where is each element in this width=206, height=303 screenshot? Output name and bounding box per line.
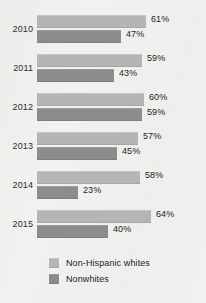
category-label-2013: 2013 [0, 131, 33, 162]
bar-2014-series1 [37, 186, 78, 199]
bar-2013-series0 [37, 132, 138, 145]
bar-group: 201564%40% [0, 209, 206, 240]
value-label-2014-series0: 58% [145, 170, 163, 180]
value-label-2012-series0: 60% [149, 92, 167, 102]
value-label-2010-series0: 61% [151, 14, 169, 24]
bar-2010-series0 [37, 15, 146, 28]
plot-area: 201061%47%201159%43%201260%59%201357%45%… [0, 0, 206, 250]
value-label-2015-series1: 40% [113, 224, 131, 234]
bar-2012-series0 [37, 93, 144, 106]
value-label-2013-series0: 57% [143, 131, 161, 141]
bar-group: 201061%47% [0, 14, 206, 45]
legend-swatch-1 [49, 274, 59, 284]
bar-2011-series0 [37, 54, 142, 67]
legend-label-1: Nonwhites [66, 274, 109, 284]
legend-label-0: Non-Hispanic whites [66, 258, 150, 268]
bar-2013-series1 [37, 147, 117, 160]
value-label-2011-series1: 43% [119, 68, 137, 78]
value-label-2012-series1: 59% [147, 107, 165, 117]
bar-2012-series1 [37, 108, 142, 121]
chart-legend: Non-Hispanic whitesNonwhites [49, 256, 199, 288]
bar-2014-series0 [37, 171, 140, 184]
bar-group: 201159%43% [0, 53, 206, 84]
value-label-2013-series1: 45% [122, 146, 140, 156]
bar-2015-series1 [37, 225, 108, 238]
bar-group: 201357%45% [0, 131, 206, 162]
bar-2015-series0 [37, 210, 151, 223]
category-label-2014: 2014 [0, 170, 33, 201]
legend-item-0: Non-Hispanic whites [49, 256, 199, 270]
category-label-2011: 2011 [0, 53, 33, 84]
category-label-2015: 2015 [0, 209, 33, 240]
value-label-2015-series0: 64% [156, 209, 174, 219]
value-label-2011-series0: 59% [147, 53, 165, 63]
bar-group: 201260%59% [0, 92, 206, 123]
grouped-bar-chart: 201061%47%201159%43%201260%59%201357%45%… [0, 0, 206, 303]
legend-item-1: Nonwhites [49, 272, 199, 286]
legend-swatch-0 [49, 258, 59, 268]
bar-group: 201458%23% [0, 170, 206, 201]
value-label-2010-series1: 47% [126, 29, 144, 39]
category-label-2012: 2012 [0, 92, 33, 123]
category-label-2010: 2010 [0, 14, 33, 45]
bar-2010-series1 [37, 30, 121, 43]
bar-2011-series1 [37, 69, 114, 82]
value-label-2014-series1: 23% [83, 185, 101, 195]
